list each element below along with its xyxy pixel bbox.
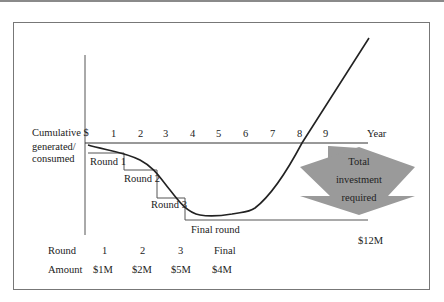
round-col-3: 3 — [178, 245, 183, 256]
amount-row-header: Amount — [48, 264, 82, 275]
y-axis-label-2: generated/ — [32, 141, 76, 152]
year-tick-2: 2 — [138, 128, 143, 139]
y-axis-label-1: Cumulative $ — [32, 127, 89, 138]
amount-col-3: $5M — [171, 264, 191, 275]
round-1-label: Round 1 — [90, 156, 126, 167]
year-tick-5: 5 — [216, 128, 221, 139]
amount-col-2: $2M — [132, 264, 152, 275]
year-tick-7: 7 — [270, 128, 275, 139]
amount-col-1: $1M — [93, 264, 113, 275]
y-axis-label-3: consumed — [32, 153, 75, 164]
round-row-header: Round — [48, 245, 76, 256]
arrow-text-2: investment — [330, 171, 388, 189]
year-tick-1: 1 — [111, 128, 116, 139]
year-tick-9: 9 — [323, 128, 328, 139]
final-round-label: Final round — [191, 224, 240, 235]
amount-col-4: $4M — [212, 264, 232, 275]
arrow-text: Total investment required — [330, 153, 388, 207]
round-3-label: Round 3 — [151, 199, 187, 210]
x-axis-label: Year — [367, 128, 386, 139]
round-col-4: Final — [214, 245, 236, 256]
arrow-text-3: required — [330, 189, 388, 207]
total-amount: $12M — [358, 235, 383, 246]
year-tick-4: 4 — [190, 128, 195, 139]
round-2-label: Round 2 — [124, 173, 160, 184]
year-tick-6: 6 — [243, 128, 248, 139]
arrow-text-1: Total — [330, 153, 388, 171]
round-col-2: 2 — [140, 245, 145, 256]
year-tick-3: 3 — [163, 128, 168, 139]
round-col-1: 1 — [102, 245, 107, 256]
year-tick-8: 8 — [297, 128, 302, 139]
